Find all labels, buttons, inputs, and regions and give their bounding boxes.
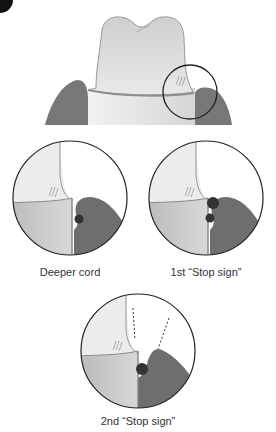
label-deeper-cord: Deeper cord [10,266,130,278]
retraction-cord-lower [206,214,215,223]
overview-panel [45,17,232,125]
label-first-stop-sign: 1st “Stop sign” [146,266,266,278]
label-second-stop-sign: 2nd “Stop sign” [78,415,198,427]
retraction-cord [75,215,84,224]
retraction-cord-upper [207,197,219,209]
tooth-crown [88,17,193,95]
panel-second-stop-sign [75,290,205,415]
panel-first-stop-sign [140,130,276,270]
gingiva-left [45,80,88,125]
retraction-cord [136,363,148,375]
dental-diagram [0,0,276,432]
panel-deeper-cord [0,130,150,270]
corner-marker [0,0,13,13]
